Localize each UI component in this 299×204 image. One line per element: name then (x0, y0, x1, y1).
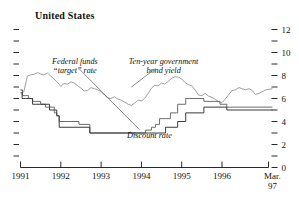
x-tick-label: 1993 (92, 171, 111, 181)
bond-yield-label: Ten-year governmentbond yield (129, 57, 199, 75)
y-tick-label: 8 (282, 71, 287, 81)
fed-funds-label: Federal funds“target” rate (51, 57, 98, 75)
x-axis-labels: 199119921993199419951996Mar.97 (12, 171, 281, 191)
svg-text:Ten-year government: Ten-year government (129, 57, 199, 66)
x-tick-label: Mar.97 (264, 171, 281, 191)
svg-text:Mar.: Mar. (264, 171, 281, 181)
x-tick-label: 1992 (52, 171, 70, 181)
y-tick-label: 2 (282, 140, 287, 150)
x-tick-label: 1995 (173, 171, 192, 181)
x-tick-label: 1994 (132, 171, 151, 181)
leader-line-group (79, 69, 156, 136)
svg-text:Federal funds: Federal funds (51, 57, 98, 66)
right-axis-labels: 024681012 (282, 25, 292, 173)
data-series-group (21, 73, 273, 133)
svg-text:Discount rate: Discount rate (126, 131, 172, 140)
svg-text:1995: 1995 (173, 171, 192, 181)
leader-line-fed-funds (79, 69, 139, 130)
y-tick-label: 6 (282, 94, 287, 104)
leader-line-bond-yield (131, 69, 155, 87)
svg-text:1996: 1996 (213, 171, 232, 181)
svg-text:1992: 1992 (52, 171, 70, 181)
chart-canvas: 024681012 199119921993199419951996Mar.97… (0, 0, 299, 204)
svg-text:“target” rate: “target” rate (53, 66, 97, 75)
x-axis-baseline (21, 162, 269, 168)
svg-text:1993: 1993 (92, 171, 111, 181)
svg-text:bond yield: bond yield (146, 66, 181, 75)
discount-rate-label: Discount rate (126, 131, 172, 140)
y-tick-label: 10 (282, 48, 292, 58)
left-axis-ticks (14, 30, 20, 157)
x-tick-label: 1996 (213, 171, 232, 181)
y-tick-label: 12 (282, 25, 291, 35)
series-line-0 (21, 73, 273, 106)
x-tick-label: 1991 (12, 171, 30, 181)
svg-text:1994: 1994 (132, 171, 151, 181)
chart-root: United States 024681012 1991199219931994… (0, 0, 299, 204)
series-line-2 (21, 93, 273, 133)
right-axis-ticks (272, 30, 278, 168)
svg-text:1991: 1991 (12, 171, 30, 181)
y-tick-label: 4 (282, 117, 287, 127)
svg-text:97: 97 (268, 181, 278, 191)
x-axis-ticks (61, 162, 222, 168)
y-tick-label: 0 (282, 163, 287, 173)
